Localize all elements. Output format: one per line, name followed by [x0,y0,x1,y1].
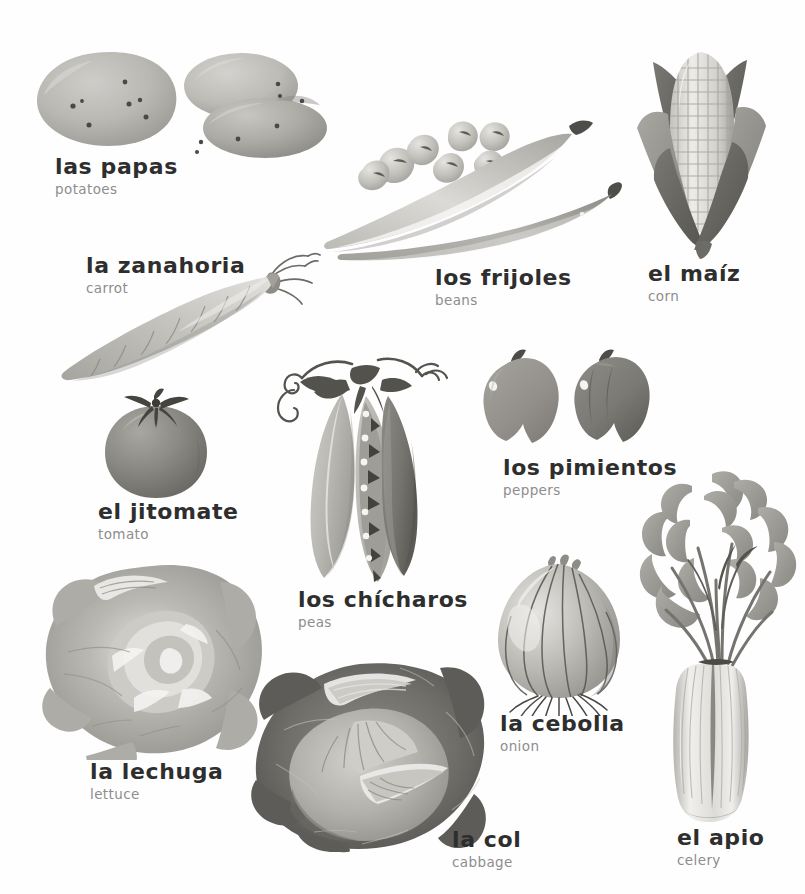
entry-label-lechuga: la lechuga lettuce [90,760,223,801]
onion-illustration [480,546,638,716]
term-chicharos: los chícharos [298,588,468,611]
gloss-col: cabbage [452,855,521,869]
gloss-papas: potatoes [55,182,178,196]
potatoes-illustration [28,45,328,160]
entry-label-cebolla: la cebolla onion [500,712,625,753]
gloss-zanahoria: carrot [86,281,245,295]
term-jitomate: el jitomate [98,500,239,523]
term-apio: el apio [677,826,765,849]
entry-label-chicharos: los chícharos peas [298,588,468,629]
term-cebolla: la cebolla [500,712,625,735]
cabbage-illustration [250,660,490,854]
entry-label-maiz: el maíz corn [648,262,740,303]
entry-label-col: la col cabbage [452,828,521,869]
term-maiz: el maíz [648,262,740,285]
gloss-pimientos: peppers [503,483,677,497]
peapods-illustration [254,350,470,584]
beans-illustration [322,110,622,265]
gloss-chicharos: peas [298,615,468,629]
entry-label-papas: las papas potatoes [55,155,178,196]
gloss-lechuga: lettuce [90,787,223,801]
gloss-maiz: corn [648,289,740,303]
term-zanahoria: la zanahoria [86,254,245,277]
entry-label-frijoles: los frijoles beans [435,266,572,307]
term-frijoles: los frijoles [435,266,572,289]
vocabulary-page: las papas potatoes [0,0,805,894]
entry-label-zanahoria: la zanahoria carrot [86,254,245,295]
celery-illustration [638,468,802,824]
entry-label-apio: el apio celery [677,826,765,867]
entry-label-jitomate: el jitomate tomato [98,500,239,541]
term-col: la col [452,828,521,851]
peppers-illustration [476,344,680,458]
entry-label-pimientos: los pimientos peppers [503,456,677,497]
term-papas: las papas [55,155,178,178]
gloss-frijoles: beans [435,293,572,307]
tomato-illustration [94,386,218,502]
gloss-apio: celery [677,853,765,867]
gloss-jitomate: tomato [98,527,239,541]
term-lechuga: la lechuga [90,760,223,783]
corn-illustration [626,42,778,260]
lettuce-illustration [34,560,270,760]
term-pimientos: los pimientos [503,456,677,479]
gloss-cebolla: onion [500,739,625,753]
